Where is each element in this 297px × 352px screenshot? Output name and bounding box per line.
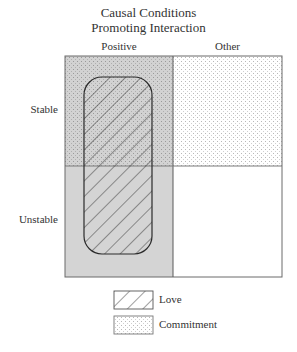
legend-commitment-label: Commitment (159, 318, 217, 330)
legend-love-label: Love (159, 293, 182, 305)
legend-commitment-swatch (114, 316, 153, 334)
cell-stable-other (173, 56, 282, 166)
love-region (84, 77, 152, 254)
quadrant-diagram (0, 0, 297, 352)
legend-love-swatch (114, 291, 153, 309)
cell-unstable-other (173, 166, 282, 277)
